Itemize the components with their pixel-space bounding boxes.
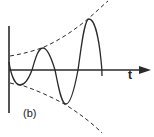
growing-oscillation-diagram: t (b) [0, 0, 154, 137]
time-axis-label: t [128, 68, 132, 82]
upper-envelope [10, 1, 108, 56]
oscillation-curve [9, 19, 102, 104]
panel-label: (b) [23, 107, 36, 119]
arrowhead-icon [139, 66, 151, 74]
